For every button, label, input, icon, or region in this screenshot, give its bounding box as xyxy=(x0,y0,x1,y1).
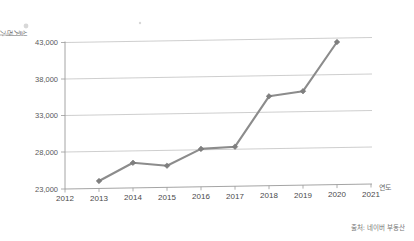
x-tick-label-2015: 2015 xyxy=(158,193,176,202)
x-tick-label-2013: 2013 xyxy=(90,194,108,203)
x-tick-label-2020: 2020 xyxy=(328,190,346,199)
scan-speck xyxy=(139,22,141,24)
y-tick-label-23000: 23,000 xyxy=(35,185,58,194)
gridline-43000 xyxy=(65,38,372,43)
x-tick-label-2017: 2017 xyxy=(226,192,244,201)
x-tick-label-2016: 2016 xyxy=(192,192,210,201)
x-axis-line xyxy=(65,184,372,189)
x-tick-label-2018: 2018 xyxy=(260,191,278,200)
x-tick-label-2019: 2019 xyxy=(294,191,312,200)
gridline-33000 xyxy=(65,111,372,116)
source-note: 출처: 네이버 부동산 xyxy=(351,223,405,232)
y-tick-label-28000: 28,000 xyxy=(35,148,58,157)
y-tick-label-43000: 43,000 xyxy=(35,38,58,47)
gridline-38000 xyxy=(65,74,372,79)
y-axis-title: 실거래가(만원) xyxy=(0,28,28,36)
x-tick-label-2012: 2012 xyxy=(56,194,74,203)
y-tick-marks xyxy=(61,43,65,190)
y-tick-label-38000: 38,000 xyxy=(35,75,58,84)
gridlines xyxy=(65,38,372,153)
line-chart: 43,000 38,000 33,000 28,000 23,000 2012 … xyxy=(0,0,414,241)
x-tick-label-2014: 2014 xyxy=(124,193,142,202)
y-tick-label-33000: 33,000 xyxy=(35,111,58,120)
x-axis-title: 연도 xyxy=(379,184,392,192)
x-tick-label-2021: 2021 xyxy=(362,190,380,199)
chart-canvas: 43,000 38,000 33,000 28,000 23,000 2012 … xyxy=(0,0,414,241)
